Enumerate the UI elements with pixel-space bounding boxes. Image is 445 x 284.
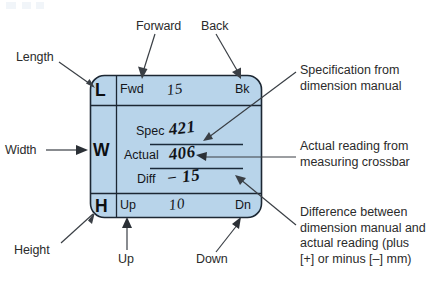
leader-forward <box>143 34 155 72</box>
annotation-spec: Specification from dimension manual <box>300 63 401 94</box>
handwritten-actual-value: 406 <box>168 142 197 165</box>
cell-down-abbr: Dn <box>235 198 251 212</box>
handwritten-diff-value: − 15 <box>166 165 202 189</box>
annotation-spec-line-1: Specification from <box>300 63 401 79</box>
annotation-actual-line-2: measuring crossbar <box>300 155 410 171</box>
callout-back: Back <box>201 19 228 34</box>
leader-down <box>216 224 238 252</box>
callout-width: Width <box>5 143 36 158</box>
callout-down: Down <box>196 252 228 267</box>
cell-forward-abbr: Fwd <box>120 82 144 96</box>
cell-length-letter: L <box>95 80 106 101</box>
leader-width-arrow <box>76 145 88 155</box>
annotation-actual: Actual reading from measuring crossbar <box>300 139 410 170</box>
callout-forward: Forward <box>136 19 181 34</box>
cell-spec-label: Spec <box>136 124 165 138</box>
callout-height: Height <box>14 243 50 258</box>
annotation-diff-line-1: Difference between <box>300 205 426 221</box>
annotation-diff-line-4: [+] or minus [–] mm) <box>300 252 426 268</box>
annotation-actual-line-1: Actual reading from <box>300 139 410 155</box>
annotation-diff-line-2: dimension manual and <box>300 221 426 237</box>
annotation-diff: Difference between dimension manual and … <box>300 205 426 267</box>
callout-up: Up <box>118 252 134 267</box>
cell-up-abbr: Up <box>120 198 136 212</box>
leader-up-arrow <box>122 217 132 228</box>
leader-back <box>216 34 238 72</box>
leader-height <box>61 214 93 243</box>
handwritten-spec-value: 421 <box>168 117 197 140</box>
leader-down-arrow <box>232 217 241 229</box>
figure-canvas: L W H Fwd Bk Spec Actual Diff Up Dn 15 4… <box>0 0 445 284</box>
cell-height-letter: H <box>95 196 108 217</box>
cell-actual-label: Actual <box>124 148 159 162</box>
annotation-diff-line-3: actual reading (plus <box>300 236 426 252</box>
handwritten-length-value: 15 <box>166 80 184 99</box>
handwritten-height-value: 10 <box>168 195 186 214</box>
annotation-spec-line-2: dimension manual <box>300 79 401 95</box>
cell-back-abbr: Bk <box>235 82 250 96</box>
cell-width-letter: W <box>93 140 110 161</box>
cell-diff-label: Diff <box>137 172 156 186</box>
callout-length: Length <box>16 50 54 65</box>
watermark-fragment <box>6 2 44 9</box>
